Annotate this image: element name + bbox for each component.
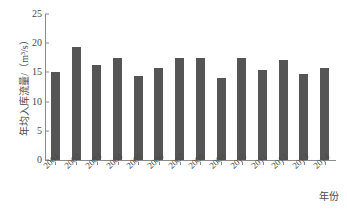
- y-axis-tick-mark: [45, 43, 49, 44]
- y-axis-title: 年均入库流量/（m³/s）: [16, 11, 31, 161]
- y-axis-tick-label: 20: [32, 38, 42, 48]
- bar: [134, 76, 143, 160]
- bar: [196, 58, 205, 160]
- y-axis-tick-label: 15: [32, 67, 42, 77]
- bar: [175, 58, 184, 160]
- y-axis-tick-mark: [45, 130, 49, 131]
- bar: [92, 65, 101, 160]
- bar-chart: 年均入库流量/（m³/s） 0510152025 200120022003200…: [0, 0, 347, 214]
- y-axis-tick-label: 10: [32, 97, 42, 107]
- bar: [320, 68, 329, 160]
- plot-area: 0510152025: [45, 14, 335, 160]
- bar: [299, 74, 308, 160]
- x-axis-tick-labels: 2001200220032004200520062007200820092010…: [45, 162, 336, 202]
- bar: [72, 47, 81, 160]
- bar: [279, 60, 288, 160]
- bar: [51, 72, 60, 160]
- y-axis-tick-mark: [45, 14, 49, 15]
- y-axis-tick-label: 5: [37, 126, 42, 136]
- y-axis-tick-label: 25: [32, 9, 42, 19]
- bar: [237, 58, 246, 160]
- bar: [217, 78, 226, 160]
- bar: [258, 70, 267, 160]
- bar: [113, 58, 122, 160]
- y-axis-tick-mark: [45, 101, 49, 102]
- bar: [154, 68, 163, 160]
- y-axis-tick-mark: [45, 72, 49, 73]
- x-axis-title: 年份: [319, 188, 339, 203]
